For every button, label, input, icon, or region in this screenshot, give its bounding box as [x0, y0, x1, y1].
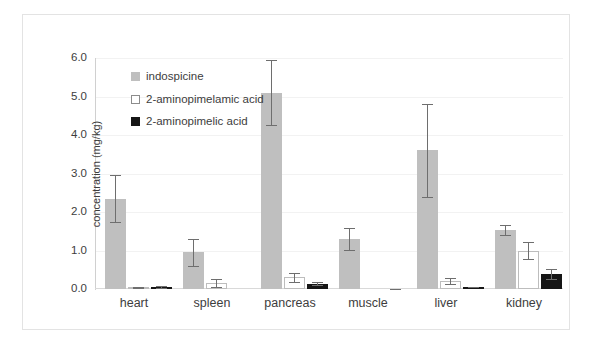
- x-axis-tick-label: pancreas: [251, 296, 329, 310]
- gridline: [96, 251, 563, 252]
- error-bar-cap: [266, 60, 277, 61]
- error-bar-line: [505, 225, 506, 235]
- legend-swatch-icon: [131, 95, 140, 104]
- error-bar-line: [427, 104, 428, 196]
- bar-kidney-indospicine: [495, 230, 516, 289]
- error-bar-cap: [266, 125, 277, 126]
- legend-item-aminopimelamic-acid: 2-aminopimelamic acid: [131, 94, 264, 106]
- y-axis-tick-label: 5.0: [45, 91, 87, 103]
- y-axis-tick-label: 1.0: [45, 245, 87, 257]
- error-bar-line: [216, 279, 217, 287]
- error-bar-cap: [211, 287, 222, 288]
- error-bar-cap: [500, 225, 511, 226]
- legend-item-indospicine: indospicine: [131, 71, 264, 83]
- gridline: [96, 212, 563, 213]
- error-bar-cap: [468, 287, 479, 288]
- y-axis-tick-label: 2.0: [45, 206, 87, 218]
- error-bar-cap: [390, 289, 401, 290]
- error-bar-cap: [188, 266, 199, 267]
- chart-figure: 6.05.04.03.02.01.00.0 heartspleenpancrea…: [22, 14, 570, 330]
- error-bar-line: [271, 60, 272, 125]
- error-bar-cap: [523, 242, 534, 243]
- legend-label: indospicine: [146, 71, 204, 83]
- error-bar-line: [528, 242, 529, 259]
- error-bar-cap: [523, 259, 534, 260]
- y-axis-tick-label: 6.0: [45, 52, 87, 64]
- legend-label: 2-aminopimelamic acid: [146, 94, 264, 106]
- error-bar-cap: [312, 285, 323, 286]
- x-axis-tick-label: muscle: [329, 296, 407, 310]
- y-axis-title: concentration (mg/kg): [90, 120, 102, 226]
- error-bar-cap: [188, 239, 199, 240]
- error-bar-cap: [312, 282, 323, 283]
- error-bar-line: [193, 239, 194, 266]
- error-bar-cap: [422, 197, 433, 198]
- gridline: [96, 174, 563, 175]
- error-bar-cap: [344, 250, 355, 251]
- legend-swatch-icon: [131, 117, 140, 126]
- error-bar-cap: [500, 235, 511, 236]
- x-axis-tick-label: kidney: [485, 296, 563, 310]
- error-bar-cap: [110, 175, 121, 176]
- legend-label: 2-aminopimelic acid: [146, 116, 248, 128]
- error-bar-cap: [211, 279, 222, 280]
- error-bar-cap: [156, 288, 167, 289]
- y-axis-tick-label: 0.0: [45, 283, 87, 295]
- error-bar-line: [551, 269, 552, 279]
- x-axis-tick-label: spleen: [173, 296, 251, 310]
- error-bar-cap: [289, 273, 300, 274]
- y-axis-tick-label: 4.0: [45, 129, 87, 141]
- error-bar-cap: [546, 279, 557, 280]
- error-bar-line: [294, 273, 295, 282]
- legend-item-aminopimelic-acid: 2-aminopimelic acid: [131, 116, 264, 128]
- error-bar-cap: [422, 104, 433, 105]
- error-bar-line: [115, 175, 116, 221]
- legend-swatch-icon: [131, 72, 140, 81]
- chart-legend: indospicine 2-aminopimelamic acid 2-amin…: [131, 71, 264, 139]
- error-bar-cap: [546, 269, 557, 270]
- error-bar-cap: [289, 282, 300, 283]
- error-bar-cap: [445, 284, 456, 285]
- error-bar-cap: [110, 222, 121, 223]
- gridline: [96, 58, 563, 59]
- error-bar-cap: [445, 278, 456, 279]
- error-bar-line: [349, 228, 350, 250]
- error-bar-cap: [344, 228, 355, 229]
- y-axis-tick-label: 3.0: [45, 168, 87, 180]
- error-bar-cap: [133, 288, 144, 289]
- x-axis-tick-label: heart: [95, 296, 173, 310]
- x-axis-tick-label: liver: [407, 296, 485, 310]
